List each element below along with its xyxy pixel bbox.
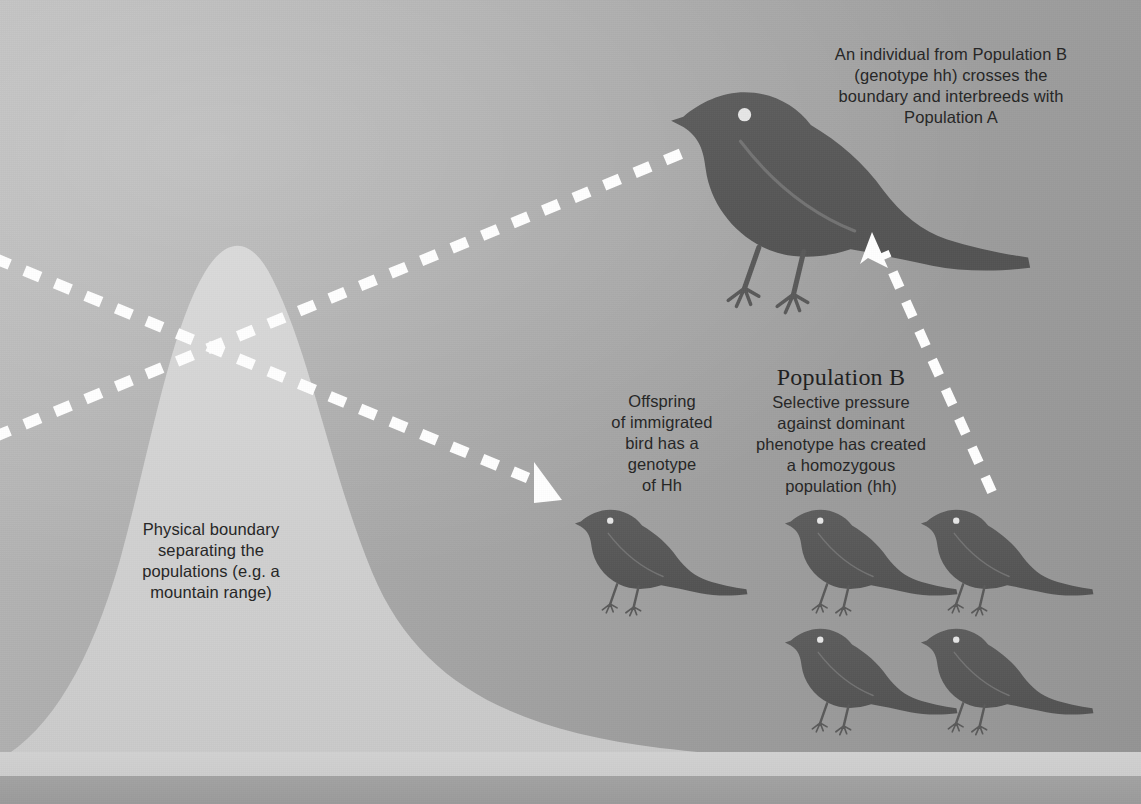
annotation-immigrant: An individual from Population B (genotyp…: [806, 44, 1096, 128]
dashed-line-ascending: [0, 150, 690, 437]
arrowhead-to-offspring: [534, 462, 562, 503]
population-b-title: Population B: [744, 362, 938, 393]
foreground-band-dark: [0, 776, 1141, 804]
annotation-offspring: Offspring of immigrated bird has a genot…: [592, 391, 732, 497]
foreground-band-light: [0, 752, 1141, 776]
annotation-boundary: Physical boundary separating the populat…: [116, 519, 306, 603]
dashed-line-descending: [0, 258, 528, 478]
annotation-population-b: Selective pressure against dominant phen…: [742, 392, 940, 498]
arrowhead-to-immigrant: [860, 232, 888, 268]
figure-canvas: An individual from Population B (genotyp…: [0, 0, 1141, 804]
